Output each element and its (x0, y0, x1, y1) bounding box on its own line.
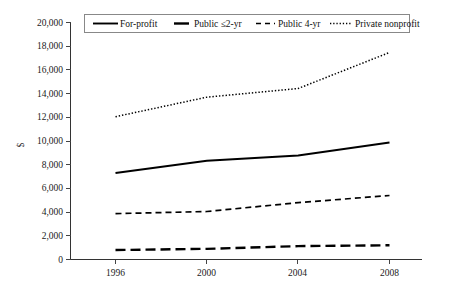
x-tick-label: 2000 (197, 268, 216, 278)
y-tick-label: 14,000 (37, 89, 63, 99)
x-tick-label: 2008 (380, 268, 399, 278)
chart-background (0, 0, 453, 295)
line-chart: 20,000 18,000 16,000 14,000 12,000 10,00… (0, 0, 453, 295)
y-axis-title: $ (16, 142, 26, 147)
x-tick-label: 1996 (106, 268, 125, 278)
y-tick-label: 6,000 (42, 183, 64, 193)
legend-label-for-profit: For-profit (120, 19, 158, 29)
y-tick-label: 10,000 (37, 136, 63, 146)
legend-label-public-4yr: Public 4-yr (278, 19, 321, 29)
y-tick-label: 18,000 (37, 41, 63, 51)
x-tick-label: 2004 (288, 268, 307, 278)
y-tick-label: 0 (58, 255, 63, 265)
legend-label-private-nonprofit: Private nonprofit (355, 19, 420, 29)
chart-legend: For-profit Public ≤2-yr Public 4-yr Priv… (85, 15, 421, 33)
chart-figure: 20,000 18,000 16,000 14,000 12,000 10,00… (0, 0, 453, 295)
y-tick-label: 4,000 (42, 207, 64, 217)
y-tick-label: 12,000 (37, 112, 63, 122)
y-tick-label: 20,000 (37, 18, 63, 28)
y-tick-label: 2,000 (42, 231, 64, 241)
y-tick-label: 8,000 (42, 160, 64, 170)
legend-label-public-2yr: Public ≤2-yr (194, 19, 243, 29)
y-tick-label: 16,000 (37, 65, 63, 75)
